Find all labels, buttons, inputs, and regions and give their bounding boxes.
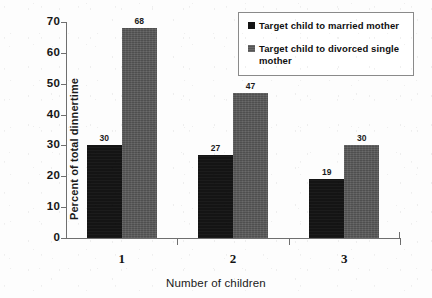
bar-value-label: 27	[196, 144, 236, 153]
legend-entry: Target child to married mother	[248, 20, 406, 32]
bar	[233, 93, 268, 238]
y-axis-tick-label: 20	[16, 170, 60, 182]
bar	[87, 145, 122, 238]
x-axis-line	[66, 238, 400, 239]
y-axis-tick	[61, 22, 66, 23]
y-axis-tick-label: 60	[16, 47, 60, 59]
y-axis-tick	[61, 145, 66, 146]
legend-swatch-icon	[248, 22, 255, 29]
y-axis-tick-label: 70	[16, 16, 60, 28]
x-axis-category-label: 3	[314, 252, 374, 265]
bar	[344, 145, 379, 238]
y-axis-tick-label: 40	[16, 109, 60, 121]
bar	[198, 155, 233, 238]
y-axis-tick	[61, 238, 66, 239]
y-axis-tick	[61, 176, 66, 177]
y-axis-tick-label: 0	[16, 232, 60, 244]
legend-label: Target child to divorced single mother	[259, 43, 406, 67]
bar-value-label: 30	[84, 134, 124, 143]
y-axis-tick	[61, 207, 66, 208]
legend-entry: Target child to divorced single mother	[248, 43, 406, 67]
bar-value-label: 47	[231, 82, 271, 91]
x-axis-category-label: 2	[203, 252, 263, 265]
y-axis-tick-label: 10	[16, 201, 60, 213]
y-axis-tick	[61, 53, 66, 54]
bar-value-label: 19	[307, 168, 347, 177]
x-axis-tick	[400, 238, 401, 245]
bar	[122, 28, 157, 238]
legend-label: Target child to married mother	[259, 20, 399, 32]
y-axis-tick	[61, 115, 66, 116]
bar-chart-figure: Percent of total dinnertime 010203040506…	[0, 0, 432, 298]
x-axis-tick	[177, 238, 178, 245]
x-axis-title: Number of children	[0, 277, 432, 289]
y-axis-tick-label: 30	[16, 139, 60, 151]
y-axis-tick-label: 50	[16, 78, 60, 90]
bar	[309, 179, 344, 238]
y-axis-tick	[61, 84, 66, 85]
legend-swatch-icon	[248, 45, 255, 52]
y-axis-line	[66, 22, 67, 239]
bar-value-label: 68	[119, 17, 159, 26]
x-axis-category-label: 1	[92, 252, 152, 265]
chart-legend: Target child to married motherTarget chi…	[238, 12, 414, 76]
bar-value-label: 30	[342, 134, 382, 143]
x-axis-tick	[289, 238, 290, 245]
